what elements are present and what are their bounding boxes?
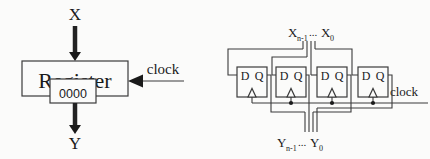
y-bus-label: Y n-1 ... Y 0 bbox=[277, 135, 323, 153]
flip-flop-3-d-label: D bbox=[321, 69, 330, 83]
x-bus-dots: ... bbox=[309, 26, 318, 38]
clock-input-arrow: clock bbox=[128, 61, 184, 88]
y-bus-dots: ... bbox=[298, 136, 307, 148]
clock-label-left: clock bbox=[147, 61, 180, 77]
y-bus-sub2: 0 bbox=[319, 144, 323, 153]
x-arrowhead-icon bbox=[69, 52, 81, 61]
flip-flop-4: D Q bbox=[358, 67, 388, 103]
x-bus-label: X n-1 ... X 0 bbox=[288, 25, 334, 43]
register-block-diagram: X Register 0000 clock Y bbox=[22, 5, 184, 153]
flip-flop-3-q-label: Q bbox=[335, 69, 344, 83]
y-bus-sub1: n-1 bbox=[286, 144, 297, 153]
flip-flop-array-diagram: X n-1 ... X 0 D Q D bbox=[228, 25, 428, 153]
clock-arrowhead-icon bbox=[128, 75, 143, 88]
flip-flop-2: D Q bbox=[276, 67, 306, 103]
clock-junction-dot-1 bbox=[289, 101, 293, 105]
flip-flop-4-q-label: Q bbox=[376, 69, 385, 83]
x-bus-sub1: n-1 bbox=[297, 34, 308, 43]
clock-label-right: clock bbox=[390, 84, 419, 99]
flip-flop-4-d-label: D bbox=[362, 69, 371, 83]
flip-flop-1-d-label: D bbox=[241, 69, 250, 83]
flip-flop-3: D Q bbox=[317, 67, 347, 103]
y-arrowhead-icon bbox=[69, 125, 81, 134]
flip-flop-2-d-label: D bbox=[280, 69, 289, 83]
flip-flop-1: D Q bbox=[237, 67, 267, 103]
clock-junction-dot-2 bbox=[330, 101, 334, 105]
x-input-arrow bbox=[69, 26, 81, 61]
register-figure: X Register 0000 clock Y X n-1 ... X 0 bbox=[0, 0, 430, 159]
flip-flop-2-q-label: Q bbox=[294, 69, 303, 83]
y-output-arrow bbox=[69, 103, 81, 134]
register-value: 0000 bbox=[59, 87, 87, 101]
x-input-label: X bbox=[69, 5, 81, 24]
x-bus-sub2: 0 bbox=[330, 34, 334, 43]
flip-flop-1-q-label: Q bbox=[255, 69, 264, 83]
y-output-label: Y bbox=[69, 134, 81, 153]
figure-canvas: X Register 0000 clock Y X n-1 ... X 0 bbox=[0, 0, 430, 159]
clock-junction-dot-3 bbox=[371, 101, 375, 105]
